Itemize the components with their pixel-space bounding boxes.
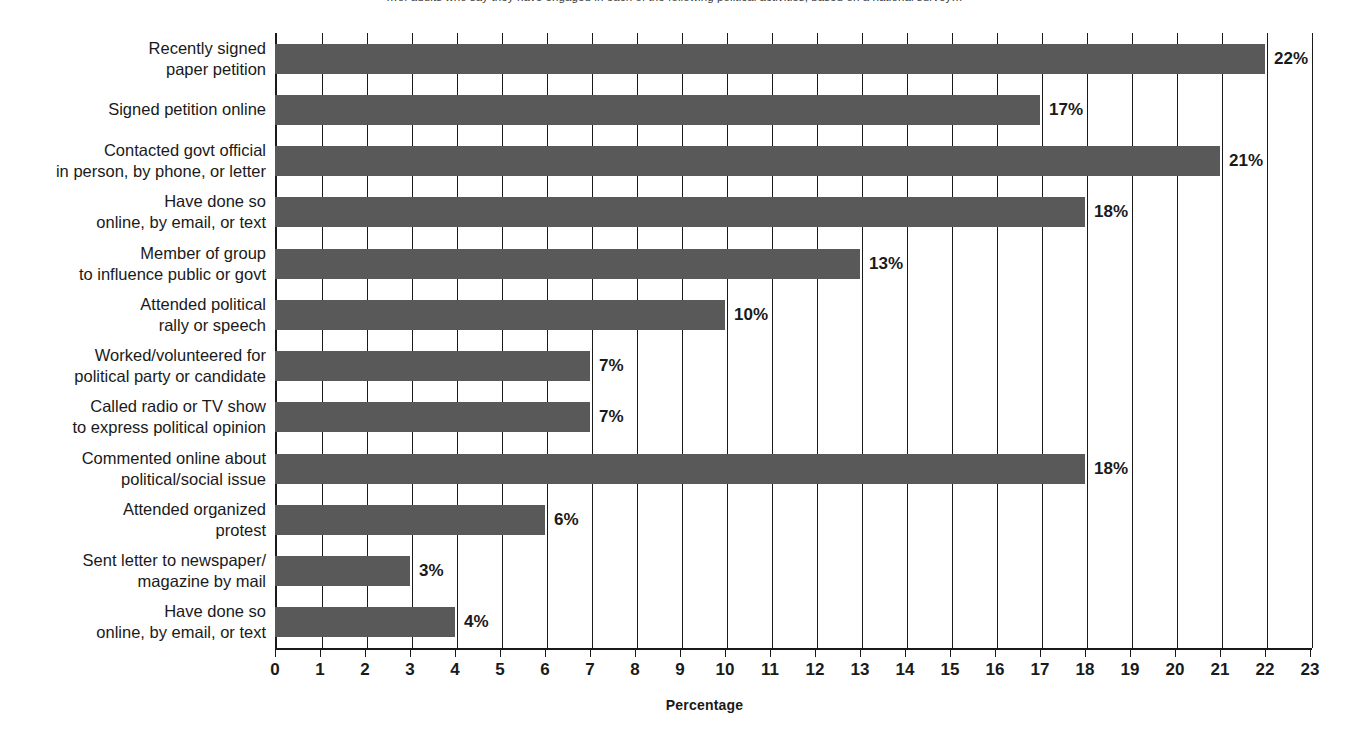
bar-value-label: 18% — [1094, 459, 1128, 479]
x-tick-label-19: 19 — [1110, 660, 1150, 680]
x-tick-label-6: 6 — [525, 660, 565, 680]
bar[interactable] — [275, 146, 1220, 176]
category-label: Have done so online, by email, or text — [0, 601, 266, 643]
x-tick-label-8: 8 — [615, 660, 655, 680]
figure-top-note: …of adults who say they have engaged in … — [0, 0, 1349, 5]
x-tick-label-3: 3 — [390, 660, 430, 680]
x-tick-label-16: 16 — [975, 660, 1015, 680]
x-tick-16 — [995, 648, 996, 657]
x-tick-label-18: 18 — [1065, 660, 1105, 680]
bar-value-label: 17% — [1049, 100, 1083, 120]
x-tick-22 — [1265, 648, 1266, 657]
x-tick-label-1: 1 — [300, 660, 340, 680]
x-tick-label-17: 17 — [1020, 660, 1060, 680]
x-tick-0 — [275, 648, 276, 657]
bar[interactable] — [275, 197, 1085, 227]
category-label: Sent letter to newspaper/ magazine by ma… — [0, 550, 266, 592]
category-label: Have done so online, by email, or text — [0, 191, 266, 233]
x-tick-1 — [320, 648, 321, 657]
category-label: Called radio or TV show to express polit… — [0, 396, 266, 438]
x-tick-10 — [725, 648, 726, 657]
category-label: Signed petition online — [0, 99, 266, 120]
x-tick-label-14: 14 — [885, 660, 925, 680]
x-tick-label-15: 15 — [930, 660, 970, 680]
bar-value-label: 7% — [599, 356, 624, 376]
x-tick-6 — [545, 648, 546, 657]
category-label: Worked/volunteered for political party o… — [0, 345, 266, 387]
category-label: Contacted govt official in person, by ph… — [0, 140, 266, 182]
category-label: Recently signed paper petition — [0, 38, 266, 80]
x-tick-18 — [1085, 648, 1086, 657]
bar-chart-figure: …of adults who say they have engaged in … — [0, 0, 1349, 745]
category-label: Attended political rally or speech — [0, 294, 266, 336]
bar-value-label: 18% — [1094, 202, 1128, 222]
x-tick-label-13: 13 — [840, 660, 880, 680]
bar[interactable] — [275, 249, 860, 279]
category-label: Commented online about political/social … — [0, 448, 266, 490]
x-tick-label-22: 22 — [1245, 660, 1285, 680]
x-tick-label-2: 2 — [345, 660, 385, 680]
x-tick-17 — [1040, 648, 1041, 657]
x-tick-label-10: 10 — [705, 660, 745, 680]
bar[interactable] — [275, 556, 410, 586]
x-tick-3 — [410, 648, 411, 657]
x-tick-label-23: 23 — [1290, 660, 1330, 680]
bar[interactable] — [275, 44, 1265, 74]
bar-value-label: 21% — [1229, 151, 1263, 171]
bar-value-label: 22% — [1274, 49, 1308, 69]
x-tick-label-21: 21 — [1200, 660, 1240, 680]
x-tick-14 — [905, 648, 906, 657]
x-tick-label-11: 11 — [750, 660, 790, 680]
bar[interactable] — [275, 351, 590, 381]
x-tick-8 — [635, 648, 636, 657]
x-axis-title: Percentage — [0, 697, 1349, 713]
x-tick-7 — [590, 648, 591, 657]
x-tick-20 — [1175, 648, 1176, 657]
x-tick-19 — [1130, 648, 1131, 657]
x-tick-label-0: 0 — [255, 660, 295, 680]
bar[interactable] — [275, 300, 725, 330]
bar-value-label: 7% — [599, 407, 624, 427]
x-tick-label-12: 12 — [795, 660, 835, 680]
category-label: Attended organized protest — [0, 499, 266, 541]
x-tick-label-9: 9 — [660, 660, 700, 680]
x-tick-4 — [455, 648, 456, 657]
bar-value-label: 6% — [554, 510, 579, 530]
x-tick-9 — [680, 648, 681, 657]
bar-value-label: 4% — [464, 612, 489, 632]
x-tick-label-7: 7 — [570, 660, 610, 680]
x-tick-label-4: 4 — [435, 660, 475, 680]
x-tick-2 — [365, 648, 366, 657]
x-axis-title-text: Percentage — [666, 697, 743, 713]
x-tick-5 — [500, 648, 501, 657]
category-label: Member of group to influence public or g… — [0, 243, 266, 285]
bar[interactable] — [275, 95, 1040, 125]
x-tick-23 — [1310, 648, 1311, 657]
x-tick-13 — [860, 648, 861, 657]
x-tick-label-5: 5 — [480, 660, 520, 680]
bar[interactable] — [275, 607, 455, 637]
x-tick-11 — [770, 648, 771, 657]
bar[interactable] — [275, 454, 1085, 484]
x-tick-15 — [950, 648, 951, 657]
bar-value-label: 3% — [419, 561, 444, 581]
x-tick-12 — [815, 648, 816, 657]
x-tick-label-20: 20 — [1155, 660, 1195, 680]
bar[interactable] — [275, 402, 590, 432]
bar[interactable] — [275, 505, 545, 535]
x-axis-line — [275, 648, 1312, 650]
bar-value-label: 13% — [869, 254, 903, 274]
x-tick-21 — [1220, 648, 1221, 657]
bar-value-label: 10% — [734, 305, 768, 325]
